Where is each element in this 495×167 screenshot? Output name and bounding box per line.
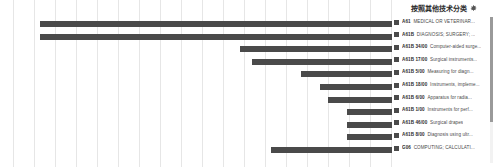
bar[interactable] xyxy=(40,21,392,27)
legend-item-label: A61B 34/00 Computer-aided surge... xyxy=(402,44,481,50)
legend-item-label: A61 MEDICAL OR VETERINAR... xyxy=(402,19,475,25)
bar[interactable] xyxy=(40,34,392,40)
bar[interactable] xyxy=(240,46,392,52)
legend-item-description: Surgical instruments... xyxy=(427,57,477,62)
legend-item[interactable]: A61B 5/00 Measuring for diagn... xyxy=(394,66,485,78)
legend-item-label: A61B 6/00 Apparatus for radia... xyxy=(402,95,472,101)
legend-item-code: A61B 34/00 xyxy=(402,44,427,49)
legend-item-description: MEDICAL OR VETERINAR... xyxy=(411,19,475,24)
legend-item-description: Surgical drapes xyxy=(427,120,463,125)
legend-item[interactable]: G06 COMPUTING; CALCULATI... xyxy=(394,142,485,154)
legend-item-list[interactable]: A61 MEDICAL OR VETERINAR...A61B DIAGNOSI… xyxy=(392,16,485,165)
legend-item-code: A61B 8/00 xyxy=(402,132,425,137)
legend-item[interactable]: A61B DIAGNOSIS; SURGERY; ... xyxy=(394,29,485,41)
legend-item-description: Apparatus for radia... xyxy=(425,95,472,100)
legend-item-label: A61B 5/00 Measuring for diagn... xyxy=(402,69,474,75)
legend-item[interactable]: A61B 17/00 Surgical instruments... xyxy=(394,54,485,66)
bar[interactable] xyxy=(252,59,392,65)
legend-item[interactable]: A61B 1/00 Instruments for perf... xyxy=(394,104,485,116)
legend-item-description: Instruments for perf... xyxy=(425,107,473,112)
gridline xyxy=(34,0,35,167)
legend-item-code: A61B 1/00 xyxy=(402,107,425,112)
legend-item-label: G06 COMPUTING; CALCULATI... xyxy=(402,145,475,151)
bar[interactable] xyxy=(320,84,392,90)
legend-item-code: A61B 6/00 xyxy=(402,95,425,100)
legend-swatch-icon xyxy=(394,57,399,62)
bar[interactable] xyxy=(328,97,392,103)
legend-item-description: DIAGNOSIS; SURGERY; ... xyxy=(414,32,475,37)
legend-item-label: A61B 17/00 Surgical instruments... xyxy=(402,57,477,63)
legend-swatch-icon xyxy=(394,83,399,88)
legend-item[interactable]: A61B 6/00 Apparatus for radia... xyxy=(394,92,485,104)
legend-item-code: A61B 5/00 xyxy=(402,69,425,74)
legend-item[interactable]: A61B 8/00 Diagnosis using ultr... xyxy=(394,129,485,141)
legend-item-description: Measuring for diagn... xyxy=(425,69,474,74)
legend-item[interactable]: A61B 46/00 Surgical drapes xyxy=(394,117,485,129)
legend-scrollbar-thumb[interactable] xyxy=(490,17,493,122)
legend-item-label: A61B 1/00 Instruments for perf... xyxy=(402,107,473,113)
bar[interactable] xyxy=(347,109,392,115)
legend-swatch-icon xyxy=(394,146,399,151)
legend-item-label: A61B 8/00 Diagnosis using ultr... xyxy=(402,132,473,138)
legend-item-description: Diagnosis using ultr... xyxy=(425,132,473,137)
bar[interactable] xyxy=(271,147,392,153)
gear-icon[interactable] xyxy=(470,5,477,12)
legend-swatch-icon xyxy=(394,70,399,75)
bar[interactable] xyxy=(301,71,392,77)
legend-swatch-icon xyxy=(394,20,399,25)
legend-item[interactable]: A61B 18/00 Instruments, impleme... xyxy=(394,79,485,91)
legend-swatch-icon xyxy=(394,108,399,113)
legend-item-description: Computer-aided surge... xyxy=(427,44,481,49)
legend-item[interactable]: A61B 34/00 Computer-aided surge... xyxy=(394,41,485,53)
legend-title: 按照其他技术分类 xyxy=(411,3,467,13)
gridline xyxy=(13,0,14,167)
legend-swatch-icon xyxy=(394,133,399,138)
legend-item-label: A61B 18/00 Instruments, impleme... xyxy=(402,82,480,88)
legend-item-code: A61 xyxy=(402,19,411,24)
legend-item-label: A61B 46/00 Surgical drapes xyxy=(402,120,463,126)
legend-swatch-icon xyxy=(394,32,399,37)
legend-item-description: Instruments, impleme... xyxy=(427,82,479,87)
legend-swatch-icon xyxy=(394,120,399,125)
bar[interactable] xyxy=(347,122,392,128)
legend-item-label: A61B DIAGNOSIS; SURGERY; ... xyxy=(402,32,475,38)
legend-swatch-icon xyxy=(394,95,399,100)
chart-legend-panel: 按照其他技术分类 A61 MEDICAL OR VETERINAR...A61B… xyxy=(392,0,495,167)
chart-plot-area xyxy=(0,0,392,167)
legend-header: 按照其他技术分类 xyxy=(392,1,495,15)
legend-swatch-icon xyxy=(394,45,399,50)
legend-item-code: A61B xyxy=(402,32,414,37)
legend-item-description: COMPUTING; CALCULATI... xyxy=(411,145,475,150)
bar[interactable] xyxy=(347,134,392,140)
legend-item-code: A61B 46/00 xyxy=(402,120,427,125)
legend-item-code: G06 xyxy=(402,145,411,150)
legend-item-code: A61B 17/00 xyxy=(402,57,427,62)
legend-item-code: A61B 18/00 xyxy=(402,82,427,87)
legend-item[interactable]: A61 MEDICAL OR VETERINAR... xyxy=(394,16,485,28)
chart-widget: 按照其他技术分类 A61 MEDICAL OR VETERINAR...A61B… xyxy=(0,0,495,167)
legend-scrollbar-track[interactable] xyxy=(490,17,493,163)
